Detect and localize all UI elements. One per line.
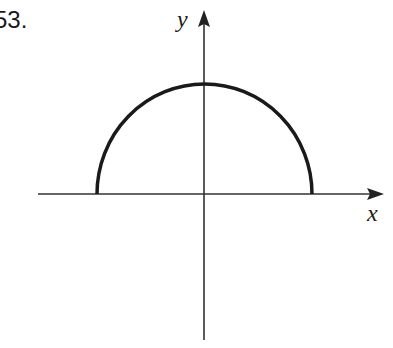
y-axis: [198, 10, 210, 340]
x-axis: [38, 188, 384, 200]
graph: [0, 0, 393, 348]
